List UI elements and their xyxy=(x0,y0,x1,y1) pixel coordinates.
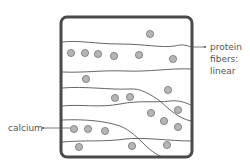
protein-fiber xyxy=(62,41,191,47)
calcium-protein-diagram xyxy=(0,0,250,167)
protein-fiber xyxy=(62,101,191,106)
calcium-particle xyxy=(146,30,153,37)
protein-label-line-1: protein xyxy=(210,41,242,53)
calcium-particle xyxy=(126,93,133,100)
calcium-particle xyxy=(75,143,82,150)
calcium-particle xyxy=(135,51,142,58)
calcium-particle xyxy=(84,125,91,132)
calcium-particle xyxy=(174,106,181,113)
calcium-particle xyxy=(82,75,89,82)
calcium-particle xyxy=(111,94,118,101)
calcium-particle xyxy=(110,52,117,59)
calcium-particle xyxy=(101,127,108,134)
calcium-particle xyxy=(147,109,154,116)
calcium-particle xyxy=(94,50,101,57)
calcium-particle xyxy=(67,49,74,56)
calcium-particle xyxy=(163,141,170,148)
protein-fibers-label: protein fibers: linear xyxy=(210,41,242,77)
protein-fiber xyxy=(62,138,191,142)
calcium-particle xyxy=(160,117,167,124)
protein-label-line-3: linear xyxy=(210,65,242,77)
calcium-particle xyxy=(164,86,171,93)
protein-leader-dot xyxy=(204,46,206,48)
protein-fiber xyxy=(62,87,191,121)
protein-fiber xyxy=(62,69,191,72)
calcium-particle xyxy=(81,49,88,56)
calcium-label: calcium xyxy=(8,122,43,134)
calcium-particle xyxy=(70,125,77,132)
calcium-particle xyxy=(174,123,181,130)
calcium-particle xyxy=(169,55,176,62)
calcium-particle xyxy=(128,142,135,149)
protein-label-line-2: fibers: xyxy=(210,53,242,65)
container-box xyxy=(61,17,192,157)
calcium-particles xyxy=(67,30,181,150)
